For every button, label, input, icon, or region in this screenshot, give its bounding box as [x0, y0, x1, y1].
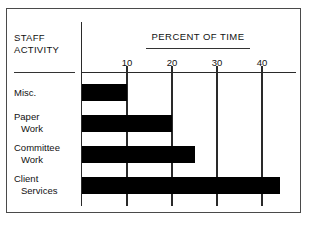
bar-0 — [82, 84, 127, 101]
chart-title-underline — [146, 48, 250, 49]
row-label-line2: Work — [14, 123, 43, 135]
row-label-line2: Services — [14, 185, 57, 197]
row-label-line1: Misc. — [14, 87, 36, 98]
row-label-3: ClientServices — [14, 173, 57, 196]
chart-title: PERCENT OF TIME — [100, 31, 296, 42]
row-label-line1: Paper — [14, 111, 39, 122]
plot-area: STAFF ACTIVITY PERCENT OF TIME 10203040 … — [0, 0, 309, 227]
tick-label-30: 30 — [202, 57, 232, 68]
row-label-line2: Work — [14, 154, 60, 166]
tick-label-10: 10 — [112, 57, 142, 68]
category-header-underline — [14, 72, 75, 73]
category-axis-header: STAFF ACTIVITY — [14, 32, 80, 55]
bar-2 — [82, 146, 195, 163]
row-label-line1: Committee — [14, 142, 60, 153]
row-label-0: Misc. — [14, 87, 36, 99]
bar-1 — [82, 115, 172, 132]
row-label-1: PaperWork — [14, 111, 43, 134]
tick-label-20: 20 — [157, 57, 187, 68]
bar-chart-figure: STAFF ACTIVITY PERCENT OF TIME 10203040 … — [0, 0, 309, 227]
bar-3 — [82, 177, 280, 194]
row-label-2: CommitteeWork — [14, 142, 60, 165]
row-label-line1: Client — [14, 173, 38, 184]
tick-label-40: 40 — [247, 57, 277, 68]
category-axis-line — [81, 72, 296, 73]
